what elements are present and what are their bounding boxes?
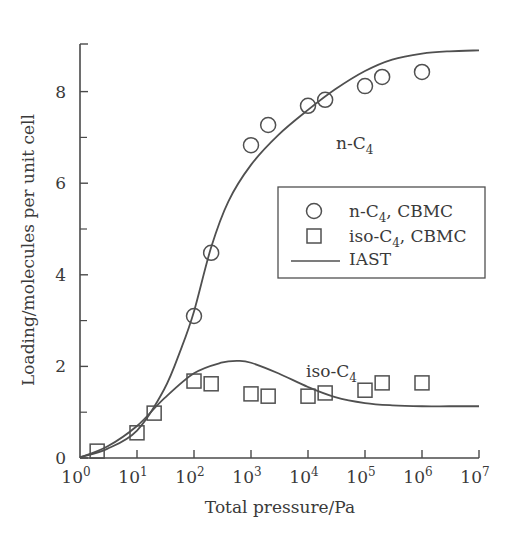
iso-c4-square-marker — [415, 376, 429, 390]
iso-c4-square-marker — [375, 376, 389, 390]
n-c4-circle-marker — [244, 138, 259, 153]
y-tick-label: 8 — [55, 82, 66, 102]
iso-c4-square-marker — [261, 389, 275, 403]
iso-c4-square-marker — [130, 426, 144, 440]
x-tick-label: 105 — [346, 465, 375, 487]
n-c4-circle-marker — [358, 79, 373, 94]
chart-container: 02468100101102103104105106107 n-C4iso-C4… — [0, 0, 518, 545]
n-c4-circle-marker — [261, 118, 276, 133]
x-tick-label: 102 — [175, 465, 204, 487]
iso-c4-square-marker — [204, 377, 218, 391]
x-tick-label: 104 — [289, 465, 319, 487]
legend-entry-label: IAST — [349, 249, 392, 269]
n-c4-circle-marker — [375, 69, 390, 84]
curve-annotation-label: n-C4 — [336, 133, 374, 157]
y-tick-label: 6 — [55, 173, 66, 193]
iso-c4-square-marker — [358, 383, 372, 397]
legend: n-C4, CBMCiso-C4, CBMCIAST — [278, 187, 485, 278]
iso-c4-square-marker — [244, 387, 258, 401]
y-tick-label: 4 — [55, 265, 66, 285]
y-tick-label: 0 — [55, 448, 66, 468]
x-tick-label: 101 — [118, 465, 147, 487]
chart-svg: 02468100101102103104105106107 n-C4iso-C4… — [0, 0, 518, 545]
x-tick-label: 100 — [61, 465, 90, 487]
x-tick-label: 106 — [403, 465, 432, 487]
curve-annotation-label: iso-C4 — [306, 361, 357, 385]
y-tick-label: 2 — [55, 356, 66, 376]
x-axis-label: Total pressure/Pa — [205, 497, 355, 517]
iso-c4-square-marker — [301, 389, 315, 403]
n-c4-circle-marker — [415, 64, 430, 79]
x-tick-label: 107 — [460, 465, 489, 487]
y-axis-label: Loading/molecules per unit cell — [18, 114, 38, 386]
x-tick-label: 103 — [232, 465, 261, 487]
